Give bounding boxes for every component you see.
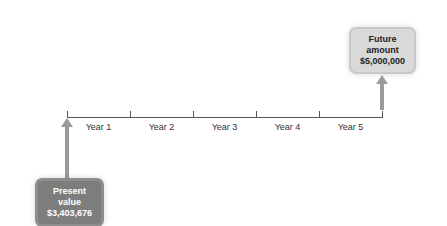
tick-year-2 (193, 111, 194, 118)
present-value-amount: $3,403,676 (47, 208, 92, 219)
future-label-line1: Future (360, 34, 405, 45)
future-label-line2: amount (360, 45, 405, 56)
year-label-1: Year 1 (67, 122, 130, 132)
year-label-2: Year 2 (130, 122, 193, 132)
future-arrow-shaft (380, 83, 384, 110)
timeline-axis (67, 117, 382, 118)
present-label-line2: value (47, 197, 92, 208)
year-label-3: Year 3 (193, 122, 256, 132)
tick-year-5 (382, 111, 383, 118)
year-label-5: Year 5 (319, 122, 382, 132)
present-arrow-shaft (65, 126, 69, 178)
tick-year-0 (67, 111, 68, 118)
year-label-4: Year 4 (256, 122, 319, 132)
present-label-line1: Present (47, 186, 92, 197)
tick-year-3 (256, 111, 257, 118)
tick-year-1 (130, 111, 131, 118)
future-amount-value: $5,000,000 (360, 56, 405, 67)
present-value-box: Present value $3,403,676 (35, 178, 104, 226)
future-amount-box: Future amount $5,000,000 (349, 27, 416, 74)
tick-year-4 (319, 111, 320, 118)
